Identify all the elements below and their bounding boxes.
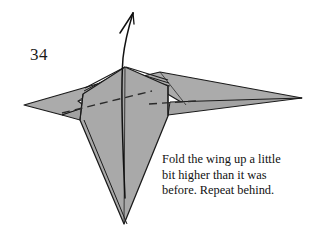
origami-figure-svg xyxy=(0,0,323,238)
caption-line-3: before. Repeat behind. xyxy=(162,183,318,199)
body xyxy=(80,67,168,224)
caption-line-1: Fold the wing up a little xyxy=(162,152,318,168)
caption-text: Fold the wing up a little bit higher tha… xyxy=(162,152,318,199)
step-number: 34 xyxy=(30,45,48,65)
fold-up-arrow-head-tip xyxy=(133,13,134,24)
caption-line-2: bit higher than it was xyxy=(162,168,318,184)
origami-diagram: 34 Fold the wing up a little bit higher … xyxy=(0,0,323,238)
fold-up-arrow-head xyxy=(120,13,133,33)
